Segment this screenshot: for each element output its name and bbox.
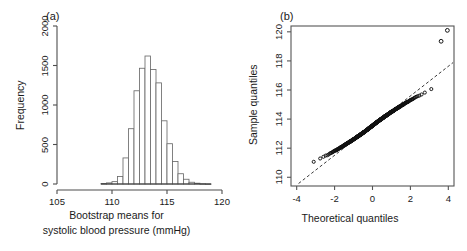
panel-b-qqplot: (b) Sample quantiles Theoretical quantil… <box>233 0 466 251</box>
panel-b-x-tick-neg2: -2 <box>330 193 338 204</box>
panel-a-x-tick-105: 105 <box>49 196 65 207</box>
panel-b-y-tick-114: 114 <box>273 112 284 127</box>
panel-a-y-tick-500: 500 <box>39 137 50 153</box>
panel-b-y-tick-118: 118 <box>273 53 284 68</box>
qq-outlier-point <box>439 39 443 43</box>
panel-b-x-tick-0: 0 <box>370 193 375 204</box>
histogram-bar <box>151 69 157 184</box>
panel-a-x-tick-110: 110 <box>104 196 119 207</box>
histogram-bar <box>167 144 173 184</box>
panel-b-y-tick-110: 110 <box>273 170 284 185</box>
histogram-bar <box>123 158 129 184</box>
histogram-bar <box>118 176 124 184</box>
qq-points <box>312 88 433 164</box>
panel-b-x-tick-neg4: -4 <box>292 193 300 204</box>
histogram-bar <box>134 91 140 184</box>
panel-b-x-tick-4: 4 <box>446 193 451 204</box>
histogram-bar <box>129 129 135 184</box>
panel-b-y-tick-112: 112 <box>273 141 284 156</box>
panel-a-x-axis-title-line1: Bootstrap means for <box>0 209 233 221</box>
panel-a-x-tick-115: 115 <box>159 196 174 207</box>
panel-b-y-tick-120: 120 <box>273 24 284 40</box>
panel-b-x-axis-title: Theoretical quantiles <box>233 212 467 224</box>
histogram-bar <box>162 121 168 184</box>
qq-outlier-point <box>445 28 449 32</box>
qq-point <box>319 157 322 160</box>
qq-point <box>423 91 426 94</box>
panel-a-histogram: (a) Frequency Bootstrap means for systol… <box>0 0 233 251</box>
histogram-bars <box>101 56 211 184</box>
qq-point <box>420 93 423 96</box>
histogram-bar <box>173 161 179 184</box>
histogram-bar <box>145 56 151 184</box>
qq-point <box>312 160 315 163</box>
panel-b-y-tick-116: 116 <box>273 82 284 97</box>
panel-a-y-tick-1000: 1000 <box>39 94 50 115</box>
figure-container: (a) Frequency Bootstrap means for systol… <box>0 0 467 251</box>
histogram-bar <box>156 83 162 184</box>
panel-b-x-tick-2: 2 <box>408 193 413 204</box>
panel-a-x-axis-title-line2: systolic blood pressure (mmHg) <box>0 224 233 236</box>
qq-point <box>430 88 433 91</box>
histogram-bar <box>184 179 190 184</box>
panel-a-x-tick-120: 120 <box>214 196 230 207</box>
panel-a-y-tick-0: 0 <box>39 181 50 186</box>
panel-a-y-tick-1500: 1500 <box>39 55 50 76</box>
qq-outliers <box>439 28 449 43</box>
panel-a-y-tick-2000: 2000 <box>39 15 50 36</box>
histogram-bar <box>140 68 146 184</box>
histogram-bar <box>178 174 184 184</box>
